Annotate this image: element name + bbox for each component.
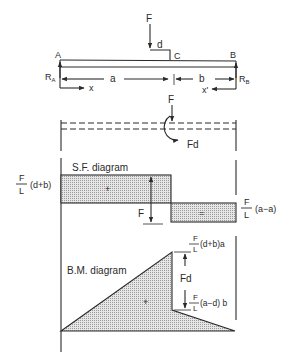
svg-text:(a−d) b: (a−d) b bbox=[200, 298, 227, 308]
bm-bottom-value: F L (a−d) b bbox=[189, 293, 227, 313]
reaction-b-label: RB bbox=[239, 74, 250, 85]
dim-a-label: a bbox=[110, 73, 116, 84]
point-c-label: C bbox=[174, 51, 181, 61]
svg-text:L: L bbox=[19, 186, 24, 196]
loaded-beam bbox=[60, 24, 236, 89]
sf-negative-sign: = bbox=[199, 208, 204, 218]
load-bracket bbox=[150, 50, 170, 60]
load-label: F bbox=[146, 13, 152, 24]
sf-diagram-title: S.F. diagram bbox=[72, 162, 128, 173]
point-b-label: B bbox=[230, 50, 236, 60]
bm-jump-label: Fd bbox=[180, 273, 192, 284]
bm-diagram bbox=[61, 252, 235, 331]
svg-text:F: F bbox=[244, 197, 250, 207]
sf-left-value: F L (d+b) bbox=[16, 173, 51, 196]
bm-top-value: F L (d+b)a bbox=[189, 234, 225, 254]
svg-text:(d+b)a: (d+b)a bbox=[200, 239, 225, 249]
svg-text:L: L bbox=[193, 245, 198, 254]
beam-diagram-canvas: F d A C B RA RB a b x x' F Fd S.F. diagr… bbox=[0, 0, 298, 353]
reaction-a-label: RA bbox=[45, 72, 56, 83]
svg-text:F: F bbox=[19, 173, 25, 183]
sf-positive-region bbox=[61, 175, 171, 203]
sf-right-value: F L (a−a) bbox=[241, 197, 276, 220]
bm-region bbox=[61, 252, 235, 331]
svg-text:F: F bbox=[193, 293, 198, 302]
svg-text:L: L bbox=[193, 304, 198, 313]
moment-label: Fd bbox=[187, 139, 199, 150]
svg-text:(d+b): (d+b) bbox=[30, 180, 51, 190]
svg-text:(a−a): (a−a) bbox=[255, 204, 276, 214]
beam-top-edge bbox=[60, 60, 236, 61]
svg-text:F: F bbox=[193, 234, 198, 243]
bm-positive-sign: + bbox=[143, 297, 148, 307]
moment-arrow bbox=[164, 116, 178, 140]
sf-positive-sign: + bbox=[105, 184, 110, 194]
equivalent-force-label: F bbox=[168, 94, 174, 105]
point-a-label: A bbox=[55, 50, 61, 60]
equivalent-loading bbox=[61, 105, 236, 151]
dim-b-label: b bbox=[199, 73, 205, 84]
x-axis-label: x bbox=[89, 83, 94, 93]
offset-d-label: d bbox=[157, 39, 163, 50]
svg-text:L: L bbox=[244, 210, 249, 220]
x-prime-axis-label: x' bbox=[202, 85, 209, 95]
bm-diagram-title: B.M. diagram bbox=[67, 265, 126, 276]
sf-jump-label: F bbox=[138, 208, 144, 219]
